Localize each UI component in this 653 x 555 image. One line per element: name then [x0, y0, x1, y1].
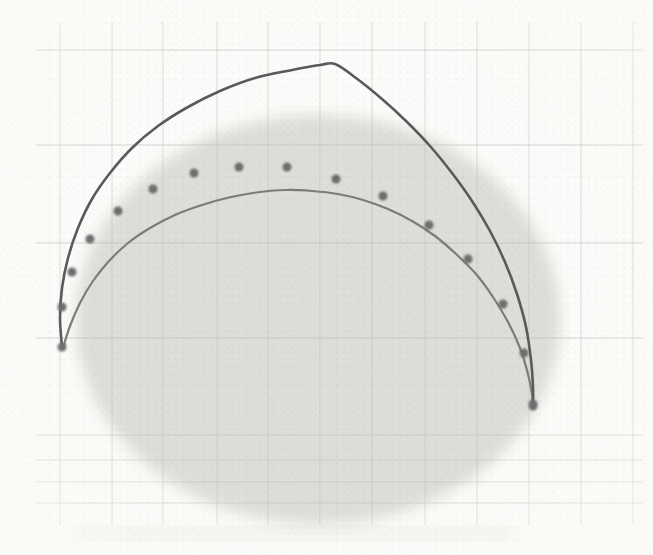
data-point-marker	[379, 192, 388, 201]
data-point-marker	[149, 185, 158, 194]
data-point-marker	[86, 235, 95, 244]
data-point-marker	[283, 163, 292, 172]
data-point-marker	[235, 163, 244, 172]
plot-svg	[0, 0, 653, 555]
data-point-marker	[58, 303, 67, 312]
gray-blob-shaded-region	[76, 115, 560, 525]
data-point-marker	[190, 169, 199, 178]
data-point-marker	[529, 402, 538, 411]
data-point-marker	[425, 221, 434, 230]
data-point-marker	[464, 255, 473, 264]
bleedthrough-text-band	[75, 527, 515, 539]
data-point-marker	[58, 343, 67, 352]
data-point-marker	[332, 175, 341, 184]
data-point-marker	[68, 268, 77, 277]
data-point-marker	[520, 349, 529, 358]
data-point-marker	[114, 207, 123, 216]
data-point-marker	[499, 300, 508, 309]
figure-container	[0, 0, 653, 555]
